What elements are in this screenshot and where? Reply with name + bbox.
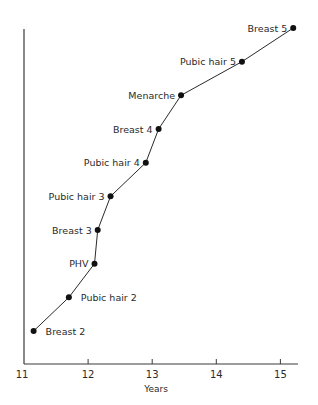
point-marker bbox=[95, 227, 101, 233]
data-points: Breast 2Pubic hair 2PHVBreast 3Pubic hai… bbox=[31, 23, 297, 337]
data-point: Pubic hair 2 bbox=[66, 292, 137, 303]
point-marker bbox=[239, 59, 245, 65]
series-line bbox=[34, 28, 294, 331]
data-point: PHV bbox=[69, 258, 97, 269]
data-point: Pubic hair 4 bbox=[84, 157, 149, 168]
data-point: Breast 2 bbox=[31, 326, 86, 337]
x-tick-label: 15 bbox=[274, 369, 287, 380]
data-point: Pubic hair 3 bbox=[49, 191, 114, 202]
point-label: Breast 3 bbox=[52, 225, 92, 236]
point-label: Breast 5 bbox=[248, 23, 288, 34]
point-marker bbox=[156, 126, 162, 132]
point-label: Breast 4 bbox=[113, 124, 153, 135]
point-label: Menarche bbox=[128, 90, 175, 101]
x-axis-title: Years bbox=[143, 384, 168, 394]
x-tick-label: 11 bbox=[16, 369, 29, 380]
point-label: Breast 2 bbox=[46, 326, 86, 337]
pubertal-events-chart: 1112131415 Years Breast 2Pubic hair 2PHV… bbox=[0, 0, 318, 405]
point-marker bbox=[92, 261, 98, 267]
point-marker bbox=[66, 294, 72, 300]
point-marker bbox=[31, 328, 37, 334]
point-label: Pubic hair 4 bbox=[84, 157, 140, 168]
x-axis: 1112131415 Years bbox=[16, 359, 298, 394]
x-tick-label: 13 bbox=[146, 369, 159, 380]
point-marker bbox=[143, 160, 149, 166]
x-tick-label: 14 bbox=[210, 369, 223, 380]
x-tick-label: 12 bbox=[82, 369, 95, 380]
data-point: Breast 4 bbox=[113, 124, 162, 135]
data-point: Menarche bbox=[128, 90, 184, 101]
point-marker bbox=[178, 92, 184, 98]
point-label: Pubic hair 5 bbox=[180, 56, 236, 67]
point-label: Pubic hair 2 bbox=[81, 292, 137, 303]
data-point: Pubic hair 5 bbox=[180, 56, 245, 67]
point-marker bbox=[108, 193, 114, 199]
point-marker bbox=[290, 25, 296, 31]
point-label: PHV bbox=[69, 258, 89, 269]
x-axis-ticks: 1112131415 bbox=[16, 359, 287, 380]
data-point: Breast 5 bbox=[248, 23, 297, 34]
point-label: Pubic hair 3 bbox=[49, 191, 105, 202]
data-point: Breast 3 bbox=[52, 225, 101, 236]
